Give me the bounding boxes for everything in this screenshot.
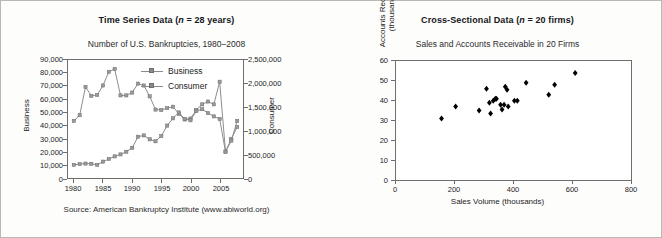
x-tickmark-2000 [191, 179, 192, 183]
y2-tickmark-2500000 [244, 59, 248, 60]
left-title-suffix: = 28 years) [184, 15, 235, 25]
data-point [218, 80, 221, 83]
y2-tickmark-1000000 [244, 131, 248, 132]
scatter-x-tick-0: 0 [380, 185, 410, 194]
scatter-x-tick-800: 800 [616, 185, 646, 194]
data-point [201, 108, 204, 111]
data-point [107, 70, 110, 73]
y2-tick-2500000: 2,500,000 [248, 55, 281, 64]
scatter-data-point [506, 104, 511, 110]
data-point [236, 119, 239, 122]
y-tickmark-80000 [63, 72, 67, 73]
legend-item-business[interactable]: Business [141, 65, 207, 77]
x-tickmark-2005 [220, 179, 221, 183]
data-point [160, 134, 163, 137]
legend-item-consumer[interactable]: Consumer [141, 80, 207, 92]
scatter-x-axis-title: Sales Volume (thousands) [332, 197, 662, 206]
data-point [101, 160, 104, 163]
data-point [72, 163, 75, 166]
data-point [218, 117, 221, 120]
y-tick-20000: 20,000 [21, 148, 63, 157]
source-note: Source: American Bankruptcy Institute (w… [1, 205, 332, 214]
y-tick-40000: 40,000 [21, 121, 63, 130]
scatter-plot-area [395, 60, 632, 181]
data-point [154, 108, 157, 111]
y-tick-80000: 80,000 [21, 68, 63, 77]
scatter-y-tick-40: 40 [368, 96, 388, 105]
data-point [107, 157, 110, 160]
scatter-data-point [573, 70, 578, 76]
scatter-y-axis-title-line2: (thousands) [387, 0, 396, 65]
data-point [78, 114, 81, 117]
data-point [154, 140, 157, 143]
data-point [166, 124, 169, 127]
data-point [224, 150, 227, 153]
data-point [206, 100, 209, 103]
y-tickmark-30000 [63, 139, 67, 140]
y2-tickmark-0 [244, 179, 248, 180]
scatter-x-tick-200: 200 [439, 185, 469, 194]
y-tickmark-90000 [63, 59, 67, 60]
data-point [113, 67, 116, 70]
x-tick-1995: 1995 [146, 184, 178, 193]
scatter-data-point [484, 86, 489, 92]
data-point [125, 94, 128, 97]
data-point [119, 153, 122, 156]
data-point [201, 103, 204, 106]
scatter-data-point [500, 107, 505, 113]
y2-tick-1000000: 1,000,000 [248, 127, 281, 136]
left-panel-title: Time Series Data (n = 28 years) [1, 15, 332, 25]
data-point [160, 108, 163, 111]
x-tickmark-1995 [161, 179, 162, 183]
scatter-y-tick-30: 30 [368, 116, 388, 125]
y2-tickmark-2000000 [244, 83, 248, 84]
scatter-y-tick-20: 20 [368, 136, 388, 145]
y-tick-90000: 90,000 [21, 55, 63, 64]
x-tick-2000: 2000 [175, 184, 207, 193]
data-point [148, 138, 151, 141]
data-point [171, 117, 174, 120]
scatter-data-point [546, 92, 551, 98]
left-title-prefix: Time Series Data ( [99, 15, 179, 25]
y-tickmark-50000 [63, 112, 67, 113]
data-point [113, 155, 116, 158]
data-point [136, 135, 139, 138]
x-tick-1990: 1990 [116, 184, 148, 193]
time-series-panel: Time Series Data (n = 28 years) Number o… [1, 1, 332, 238]
data-point [78, 163, 81, 166]
y-tickmark-70000 [63, 85, 67, 86]
scatter-data-point [477, 108, 482, 114]
scatter-svg [396, 61, 631, 180]
data-point [90, 94, 93, 97]
data-point [72, 119, 75, 122]
scatter-data-point [439, 116, 444, 122]
data-point [125, 150, 128, 153]
y-tick-60000: 60,000 [21, 95, 63, 104]
y-tickmark-40000 [63, 125, 67, 126]
y-tick-0: 0 [21, 175, 63, 184]
business-series [72, 108, 239, 167]
y-tickmark-60000 [63, 99, 67, 100]
y-tickmark-20000 [63, 152, 67, 153]
scatter-data-point [488, 111, 493, 117]
data-point [131, 146, 134, 149]
legend-marker-icon-consumer [141, 86, 163, 87]
scatter-data-point [552, 82, 557, 88]
data-point [90, 162, 93, 165]
data-point [189, 119, 192, 122]
legend-label-business: Business [168, 66, 203, 76]
y2-tick-1500000: 1,500,000 [248, 103, 281, 112]
time-series-legend: Business Consumer [141, 65, 207, 95]
data-point [84, 162, 87, 165]
y-tick-50000: 50,000 [21, 108, 63, 117]
data-point [148, 95, 151, 98]
scatter-y-tick-50: 50 [368, 76, 388, 85]
data-point [206, 112, 209, 115]
scatter-y-tick-60: 60 [368, 56, 388, 65]
right-y-axis-title-consumer: Consumer [267, 86, 276, 146]
data-point [101, 84, 104, 87]
scatter-y-tick-0: 0 [368, 176, 388, 185]
data-point [212, 115, 215, 118]
scatter-data-point [515, 98, 520, 104]
y-tick-10000: 10,000 [21, 161, 63, 170]
